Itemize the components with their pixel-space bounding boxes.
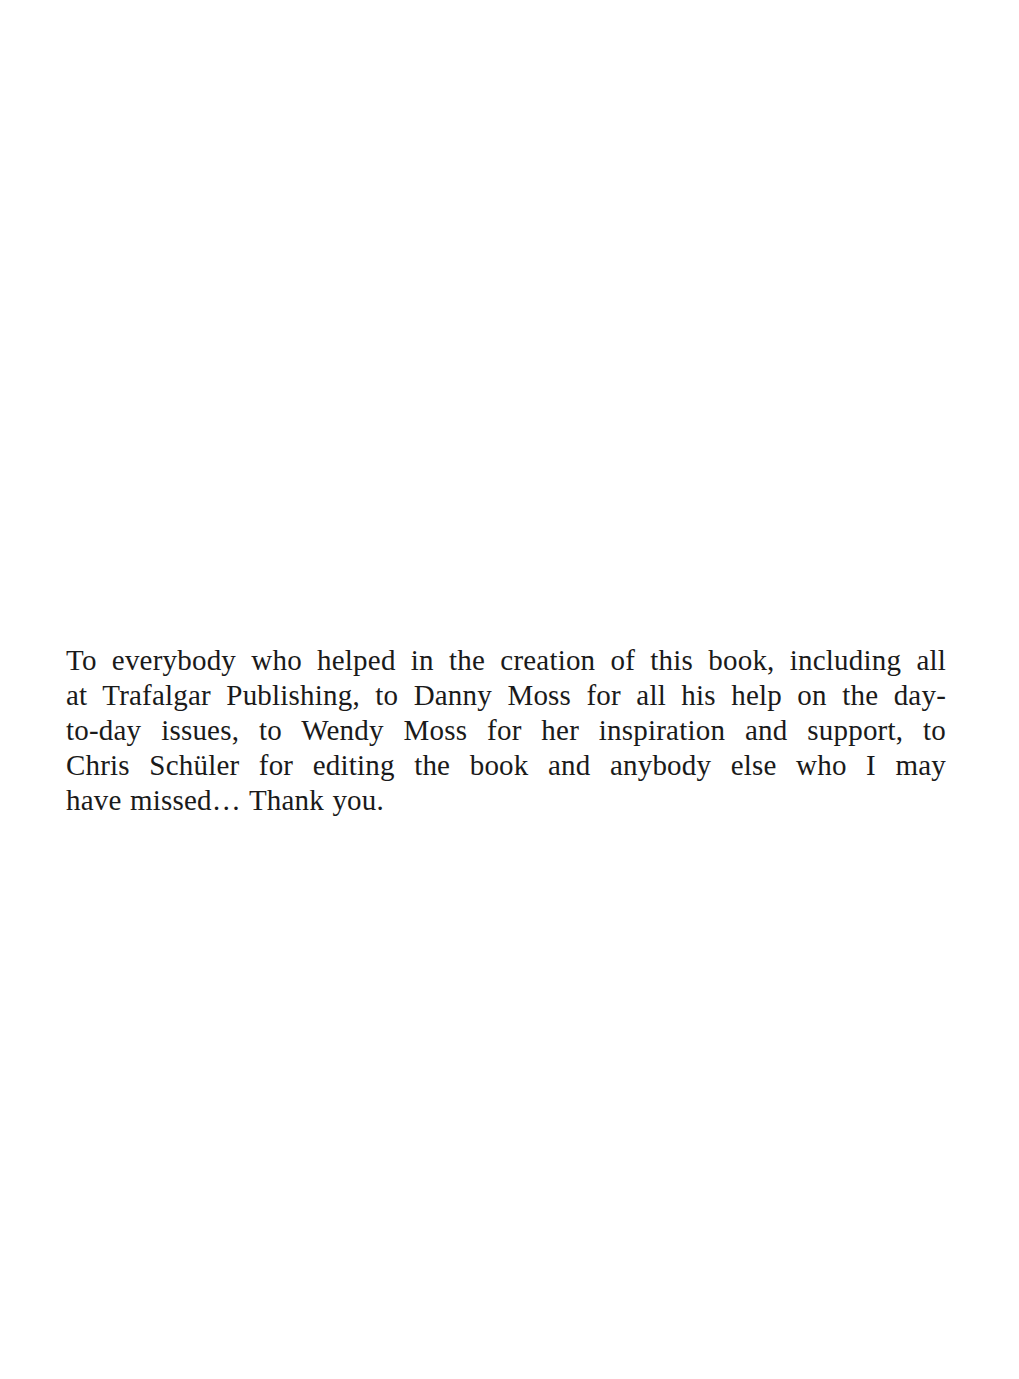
paragraph-line-4: Chris Schüler for editing the book and a… [66,748,946,783]
paragraph-line-2: at Trafalgar Publishing, to Danny Moss f… [66,678,946,713]
book-page: To everybody who helped in the creation … [0,0,1019,1379]
paragraph-line-3: to-day issues, to Wendy Moss for her ins… [66,713,946,748]
paragraph-line-1: To everybody who helped in the creation … [66,643,946,678]
paragraph-line-5: have missed… Thank you. [66,783,946,818]
acknowledgement-paragraph: To everybody who helped in the creation … [66,643,946,818]
